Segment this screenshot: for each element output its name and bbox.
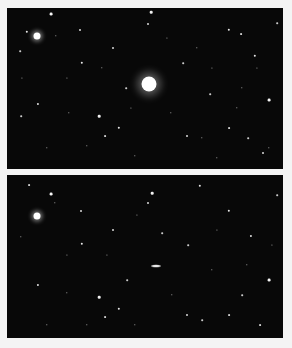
star	[247, 137, 249, 139]
star	[81, 243, 83, 245]
star	[101, 67, 102, 68]
star	[147, 23, 149, 25]
star	[228, 127, 230, 129]
star	[228, 29, 230, 31]
star	[106, 254, 107, 255]
star	[268, 99, 271, 102]
star	[104, 316, 106, 318]
star	[228, 314, 230, 316]
bright-star	[34, 213, 41, 220]
star	[150, 11, 153, 14]
star	[118, 127, 120, 129]
star	[19, 50, 21, 52]
star	[216, 229, 217, 230]
bright-disk	[142, 77, 157, 92]
star	[259, 324, 261, 326]
star	[37, 103, 39, 105]
star	[187, 244, 189, 246]
star	[201, 319, 203, 321]
star	[80, 210, 82, 212]
star	[134, 155, 135, 156]
star	[134, 324, 135, 325]
star	[66, 77, 67, 78]
star	[55, 35, 56, 36]
star	[209, 93, 211, 95]
star	[50, 13, 53, 16]
star	[28, 184, 30, 186]
star	[186, 314, 188, 316]
star	[241, 87, 242, 88]
star	[276, 22, 278, 24]
star	[54, 202, 55, 203]
star	[50, 193, 53, 196]
star	[81, 62, 83, 64]
bright-star	[34, 33, 41, 40]
star	[21, 77, 22, 78]
star	[151, 192, 154, 195]
streak-object	[151, 265, 161, 268]
star	[211, 67, 212, 68]
star	[118, 308, 120, 310]
star	[66, 292, 67, 293]
star	[37, 284, 39, 286]
star	[241, 294, 243, 296]
star	[268, 147, 269, 148]
star	[196, 47, 197, 48]
star	[98, 296, 101, 299]
star	[98, 115, 101, 118]
star	[276, 194, 278, 196]
star	[112, 229, 114, 231]
star	[216, 157, 217, 158]
star	[86, 324, 87, 325]
star	[256, 67, 257, 68]
star	[236, 107, 237, 108]
star	[211, 269, 212, 270]
star	[86, 145, 87, 146]
star	[136, 214, 137, 215]
star	[240, 33, 242, 35]
star	[254, 55, 256, 57]
star	[271, 244, 272, 245]
star	[171, 294, 172, 295]
star	[186, 135, 188, 137]
star	[130, 107, 131, 108]
star	[161, 232, 163, 234]
star	[79, 29, 81, 31]
star	[125, 87, 127, 89]
star	[112, 47, 114, 49]
star	[228, 210, 230, 212]
star	[182, 62, 184, 64]
star	[104, 135, 106, 137]
star	[20, 115, 22, 117]
star-field-photo-top	[7, 8, 283, 169]
star	[20, 236, 21, 237]
star	[199, 185, 201, 187]
star	[166, 37, 167, 38]
star	[262, 152, 264, 154]
star-field-photo-bottom	[7, 175, 283, 338]
star	[126, 279, 128, 281]
star	[170, 112, 171, 113]
star	[68, 112, 69, 113]
star	[147, 202, 149, 204]
star	[201, 137, 202, 138]
star	[250, 235, 252, 237]
star	[46, 324, 47, 325]
star	[268, 279, 271, 282]
star	[66, 254, 67, 255]
star	[246, 264, 247, 265]
star	[46, 147, 47, 148]
star	[26, 31, 28, 33]
